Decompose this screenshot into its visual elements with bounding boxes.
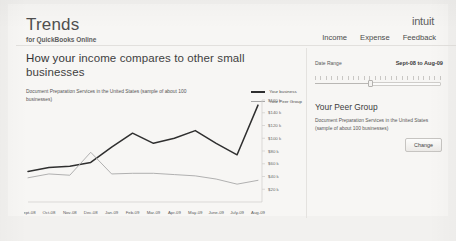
svg-text:$140 k: $140 k — [268, 110, 282, 115]
svg-text:$160 k: $160 k — [268, 98, 282, 103]
page-title: Trends — [26, 16, 96, 34]
side-panel: Date Range Sept-08 to Aug-09 Your Peer G… — [315, 60, 443, 132]
svg-text:Sept-08: Sept-08 — [24, 210, 36, 215]
chart-svg: $20 k$40 k$60 k$80 k$100 k$120 k$140 k$1… — [24, 96, 302, 218]
brand: Trends for QuickBooks Online — [26, 16, 96, 44]
svg-text:Apr-09: Apr-09 — [168, 210, 182, 215]
legend-label: Your business — [269, 89, 296, 94]
svg-text:Aug-09: Aug-09 — [251, 210, 265, 215]
svg-text:Nov-08: Nov-08 — [63, 210, 77, 215]
income-trend-chart: $20 k$40 k$60 k$80 k$100 k$120 k$140 k$1… — [24, 96, 302, 218]
svg-text:May-09: May-09 — [188, 210, 203, 215]
svg-text:June-09: June-09 — [208, 210, 224, 215]
headline: How your income compares to other small … — [26, 51, 302, 79]
date-range-label: Date Range — [315, 60, 342, 66]
peer-group-title: Your Peer Group — [315, 102, 443, 112]
svg-text:$120 k: $120 k — [268, 123, 282, 128]
slider-ticks — [315, 76, 441, 81]
legend-item-your-business: Your business — [251, 89, 302, 94]
svg-text:July-09: July-09 — [230, 210, 244, 215]
svg-text:$40 k: $40 k — [268, 174, 280, 179]
date-range-value: Sept-08 to Aug-09 — [396, 60, 443, 66]
svg-text:Jan-09: Jan-09 — [105, 210, 119, 215]
svg-text:Dec-08: Dec-08 — [84, 210, 98, 215]
svg-text:$20 k: $20 k — [268, 187, 280, 192]
brand-subtitle: for QuickBooks Online — [26, 35, 96, 44]
svg-text:Feb-09: Feb-09 — [126, 210, 140, 215]
slider-handle-start[interactable] — [368, 80, 373, 87]
legend-swatch-icon — [251, 91, 265, 93]
peer-group-description: Document Preparation Services in the Uni… — [315, 117, 431, 132]
app-page: Trends for QuickBooks Online intuit Inco… — [0, 0, 456, 241]
svg-text:$100 k: $100 k — [268, 136, 282, 141]
change-peer-group-button[interactable]: Change — [405, 138, 442, 152]
intuit-logo: intuit — [412, 15, 434, 27]
nav-item-expense[interactable]: Expense — [360, 33, 390, 42]
svg-text:Mar-09: Mar-09 — [147, 210, 161, 215]
content-card: Trends for QuickBooks Online intuit Inco… — [8, 4, 448, 216]
svg-text:$80 k: $80 k — [268, 149, 280, 154]
top-navigation: Income Expense Feedback — [322, 33, 436, 42]
svg-text:Oct-08: Oct-08 — [42, 210, 56, 215]
panel-divider — [306, 48, 307, 218]
headline-lead: How your — [26, 52, 79, 64]
nav-item-income[interactable]: Income — [322, 33, 347, 42]
nav-item-feedback[interactable]: Feedback — [403, 33, 436, 42]
slider-selected-range[interactable] — [370, 82, 441, 86]
header-divider — [16, 45, 456, 46]
date-range-slider[interactable] — [315, 76, 441, 89]
svg-text:$60 k: $60 k — [268, 161, 280, 166]
date-range-row: Date Range Sept-08 to Aug-09 — [315, 60, 443, 71]
